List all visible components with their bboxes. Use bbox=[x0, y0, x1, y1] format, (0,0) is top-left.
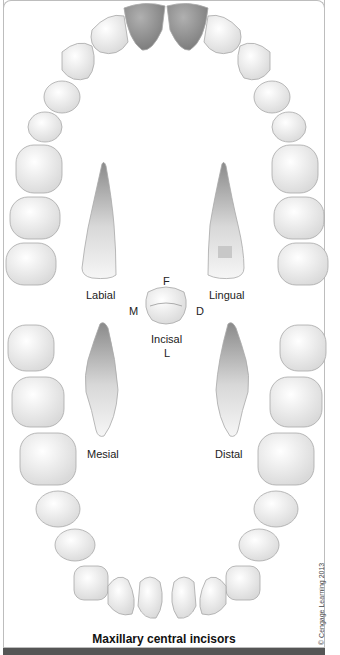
dental-arch-diagram bbox=[0, 0, 340, 655]
upper-central-incisor-right bbox=[167, 3, 208, 50]
copyright-notice: © Cengage Learning 2013 bbox=[318, 563, 325, 645]
label-mesial-direction: M bbox=[129, 305, 138, 317]
label-mesial: Mesial bbox=[87, 448, 119, 460]
caption-bar bbox=[3, 648, 325, 655]
label-facial: F bbox=[163, 275, 170, 287]
incisal-view-tooth bbox=[146, 287, 187, 324]
lingual-view-tooth bbox=[208, 162, 244, 278]
mesial-view-tooth bbox=[85, 323, 118, 437]
label-incisal: Incisal bbox=[151, 333, 182, 345]
lower-arch bbox=[8, 325, 326, 618]
label-labial: Labial bbox=[86, 289, 115, 301]
label-distal: Distal bbox=[215, 448, 243, 460]
labial-view-tooth bbox=[82, 162, 116, 278]
distal-view-tooth bbox=[216, 323, 249, 437]
label-lingual: Lingual bbox=[209, 289, 244, 301]
upper-arch bbox=[6, 3, 328, 285]
label-lingual-direction: L bbox=[164, 347, 170, 359]
upper-central-incisor-left bbox=[124, 3, 165, 50]
label-distal-direction: D bbox=[196, 305, 204, 317]
figure-caption: Maxillary central incisors bbox=[3, 632, 325, 646]
